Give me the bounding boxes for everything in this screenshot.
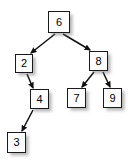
tree-node-label: 7 <box>73 92 79 103</box>
tree-node-label: 6 <box>56 16 62 27</box>
tree-node-label: 3 <box>13 137 19 148</box>
tree-node-6[interactable]: 6 <box>48 11 70 33</box>
tree-edge-n2-n4 <box>27 74 33 88</box>
tree-edge-n6-n8 <box>63 34 90 50</box>
tree-node-label: 8 <box>95 55 101 66</box>
tree-node-3[interactable]: 3 <box>7 132 26 153</box>
tree-node-7[interactable]: 7 <box>67 88 86 108</box>
tree-node-2[interactable]: 2 <box>15 54 33 73</box>
tree-node-label: 2 <box>21 58 27 69</box>
tree-edges <box>22 34 110 131</box>
tree-node-9[interactable]: 9 <box>103 88 122 108</box>
tree-edge-n6-n2 <box>31 34 55 53</box>
tree-edge-n8-n9 <box>103 72 110 87</box>
tree-node-label: 4 <box>36 93 42 104</box>
tree-edge-n4-n3 <box>22 110 33 131</box>
tree-node-8[interactable]: 8 <box>89 51 108 71</box>
binary-tree-diagram: 6 2 8 4 7 9 3 <box>0 0 140 168</box>
tree-node-label: 9 <box>109 92 115 103</box>
tree-edge-n8-n7 <box>82 72 94 87</box>
tree-node-4[interactable]: 4 <box>30 89 49 109</box>
